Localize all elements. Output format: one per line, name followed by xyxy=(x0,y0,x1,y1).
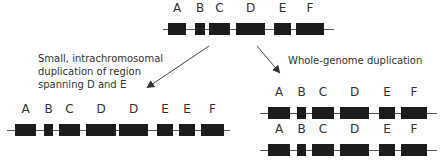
wgd-chromosome-copy-1: A B C D E F xyxy=(260,107,437,119)
gene-label: F xyxy=(399,85,429,99)
segmental-chromosome: A B C D D E E F xyxy=(7,124,230,136)
gene-block-a: A xyxy=(268,144,290,156)
arrow-to-wgd xyxy=(257,46,279,72)
gene-block-c: C xyxy=(59,124,80,136)
gene-block-a: A xyxy=(15,124,36,136)
gene-block-c: C xyxy=(312,144,334,156)
gene-block-c: C xyxy=(312,107,334,119)
gene-block-b: B xyxy=(297,144,306,156)
gene-block-e: E xyxy=(379,144,395,156)
gene-block-f: F xyxy=(401,107,427,119)
wgd-chromosome-copy-2: A B C D E F xyxy=(260,144,437,156)
wgd-caption: Whole-genome duplication xyxy=(288,54,422,67)
segmental-caption: Small, intrachromosomal duplication of r… xyxy=(38,52,163,91)
gene-label: C xyxy=(308,85,338,99)
caption-line: duplication of region xyxy=(38,65,163,78)
gene-label: D xyxy=(119,102,149,116)
gene-label: F xyxy=(198,102,228,116)
gene-block-e-dup: E xyxy=(179,124,195,136)
gene-label: C xyxy=(308,122,338,136)
gene-block-b: B xyxy=(297,107,306,119)
gene-block-f: F xyxy=(201,124,224,136)
gene-block-a: A xyxy=(268,107,290,119)
gene-label: E xyxy=(372,122,402,136)
gene-label: F xyxy=(399,122,429,136)
caption-line: Small, intrachromosomal xyxy=(38,52,163,65)
caption-line: spanning D and E xyxy=(38,78,163,91)
gene-block-d: D xyxy=(340,144,369,156)
gene-label: D xyxy=(340,85,370,99)
gene-block-d: D xyxy=(340,107,369,119)
gene-label: D xyxy=(340,122,370,136)
gene-block-d-dup: D xyxy=(119,124,148,136)
gene-block-e: E xyxy=(379,107,395,119)
gene-block-f: F xyxy=(401,144,427,156)
gene-label: D xyxy=(86,102,116,116)
gene-block-d: D xyxy=(86,124,116,136)
gene-block-e: E xyxy=(157,124,173,136)
gene-block-b: B xyxy=(44,124,53,136)
gene-label: C xyxy=(55,102,85,116)
gene-label: E xyxy=(372,85,402,99)
